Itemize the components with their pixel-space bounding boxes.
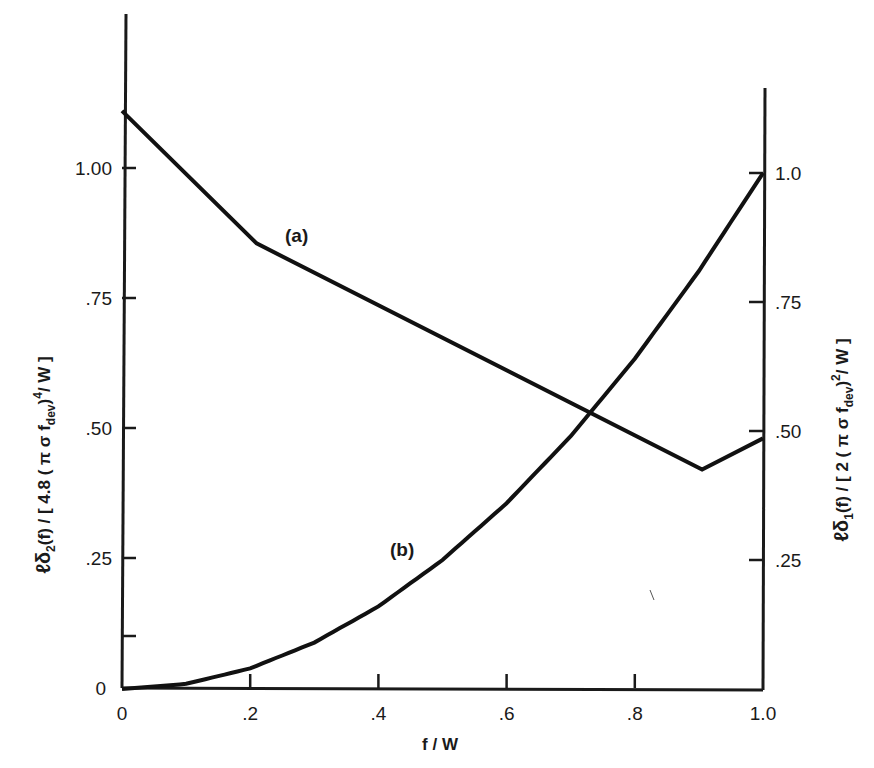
x-tick-label: .6 (499, 703, 515, 724)
right-y-tick-label: 1.0 (775, 163, 801, 184)
right-title-dev: dev (842, 386, 856, 407)
curve-b (122, 173, 763, 689)
x-tick-label: 1.0 (750, 703, 776, 724)
left-y-axis-title: ℓδ2(f) / [ 4.8 ( π σ fdev)4/ W ] (31, 356, 58, 574)
series (122, 111, 763, 689)
curve-b-label: (b) (390, 539, 414, 560)
stray-mark (650, 590, 654, 600)
x-tick-label: .4 (370, 703, 386, 724)
left-y-tick-label: .25 (86, 548, 112, 569)
x-tick-label: .8 (627, 703, 643, 724)
right-y-tick-label: .25 (775, 550, 801, 571)
right-y-tick-label: .50 (775, 421, 801, 442)
right-y-axis-title: ℓδ1(f) / [ 2 ( π σ fdev)2/ W ] (829, 338, 856, 541)
left-title-rest: (f) / [ 4.8 ( π σ f (35, 425, 54, 545)
left-title-dev: dev (44, 404, 58, 425)
right-title-tail: / W ] (833, 338, 852, 374)
left-title-main: ℓδ (32, 552, 54, 574)
x-tick-label: .2 (242, 703, 258, 724)
x-axis-title: f / W (422, 735, 459, 754)
left-y-tick-label: .50 (86, 418, 112, 439)
left-y-tick-label: 0 (95, 678, 106, 699)
right-y-axis (763, 88, 765, 690)
curve-a (122, 111, 763, 470)
right-title-rest: (f) / [ 2 ( π σ f (833, 407, 852, 513)
left-y-tick-label: .75 (86, 288, 112, 309)
axes (122, 14, 765, 690)
left-y-tick-label: 1.00 (75, 158, 112, 179)
curve-a-label: (a) (285, 225, 308, 246)
x-ticks: 0.2.4.6.81.0 (117, 674, 777, 724)
svg-text:ℓδ2(f) / [ 4.8 ( π σ fdev)4/ W: ℓδ2(f) / [ 4.8 ( π σ fdev)4/ W ] (31, 356, 58, 574)
right-y-tick-label: .75 (775, 292, 801, 313)
right-title-main: ℓδ (830, 520, 852, 542)
chart: 0.2.4.6.81.0 0.25.50.751.00 .25.50.751.0… (0, 0, 874, 768)
left-title-tail: / W ] (35, 356, 54, 392)
left-y-ticks: 0.25.50.751.00 (75, 158, 136, 699)
svg-text:ℓδ1(f) / [ 2 ( π σ fdev)2/ W ]: ℓδ1(f) / [ 2 ( π σ fdev)2/ W ] (829, 338, 856, 541)
x-axis (122, 688, 763, 690)
x-tick-label: 0 (117, 703, 128, 724)
right-y-ticks: .25.50.751.0 (749, 163, 801, 571)
